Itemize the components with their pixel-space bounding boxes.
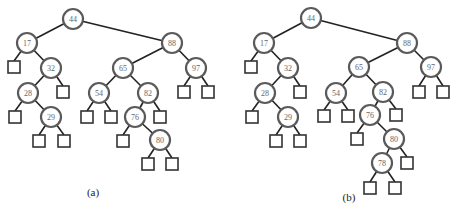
tree-node-28: 28 <box>255 83 275 103</box>
tree-node-65: 65 <box>113 58 133 78</box>
tree-node-17: 17 <box>254 33 274 53</box>
external-leaf-node <box>9 111 21 123</box>
node-key-label: 17 <box>23 39 31 48</box>
tree-node-44: 44 <box>301 8 321 28</box>
external-leaf-node <box>437 86 449 98</box>
tree-node-97: 97 <box>186 58 206 78</box>
external-leaf-node <box>413 86 425 98</box>
node-key-label: 28 <box>24 89 32 98</box>
tree-node-32: 32 <box>278 58 298 78</box>
tree-node-29: 29 <box>278 107 298 127</box>
tree-node-65: 65 <box>349 57 369 77</box>
external-leaf-node <box>294 135 306 147</box>
tree-node-88: 88 <box>162 33 182 53</box>
external-leaf-node <box>390 109 402 121</box>
external-leaf-node <box>270 135 282 147</box>
node-key-label: 80 <box>390 135 398 144</box>
external-leaf-node <box>246 111 258 123</box>
node-key-label: 76 <box>131 113 139 122</box>
external-leaf-node <box>142 158 154 170</box>
node-key-label: 54 <box>332 89 340 98</box>
tree-node-76: 76 <box>125 107 145 127</box>
tree-node-54: 54 <box>89 83 109 103</box>
edge-44-88 <box>311 18 407 43</box>
node-key-label: 65 <box>355 63 363 72</box>
tree-node-80: 80 <box>384 129 404 149</box>
external-leaf-node <box>58 135 70 147</box>
external-leaf-node <box>294 86 306 98</box>
tree-node-97: 97 <box>421 57 441 77</box>
node-key-label: 17 <box>260 39 268 48</box>
node-key-label: 88 <box>403 39 411 48</box>
tree-node-82: 82 <box>138 83 158 103</box>
node-key-label: 65 <box>119 64 127 73</box>
external-leaf-node <box>401 157 413 169</box>
tree-node-32: 32 <box>41 58 61 78</box>
node-key-label: 54 <box>95 89 103 98</box>
node-key-label: 28 <box>261 89 269 98</box>
tree-b: 44173228298865975482768078(b) <box>245 8 449 204</box>
subfigure-caption: (a) <box>87 186 100 199</box>
external-leaf-node <box>389 182 401 194</box>
node-key-label: 78 <box>378 159 386 168</box>
node-key-label: 97 <box>192 64 200 73</box>
node-key-label: 97 <box>427 63 435 72</box>
node-key-label: 80 <box>156 136 164 145</box>
tree-a: 441732282988659754827680(a) <box>8 9 214 199</box>
tree-node-29: 29 <box>41 107 61 127</box>
tree-node-80: 80 <box>150 130 170 150</box>
subfigure-caption: (b) <box>343 191 356 204</box>
node-key-label: 44 <box>69 15 77 24</box>
external-leaf-node <box>318 110 330 122</box>
tree-node-17: 17 <box>17 33 37 53</box>
external-leaf-node <box>33 135 45 147</box>
tree-node-28: 28 <box>18 83 38 103</box>
node-key-label: 88 <box>168 39 176 48</box>
node-key-label: 82 <box>144 89 152 98</box>
tree-node-78: 78 <box>372 153 392 173</box>
node-key-label: 44 <box>307 14 315 23</box>
node-key-label: 32 <box>284 64 292 73</box>
external-leaf-node <box>117 135 129 147</box>
node-key-label: 76 <box>366 111 374 120</box>
tree-node-44: 44 <box>63 9 83 29</box>
node-key-label: 32 <box>47 64 55 73</box>
external-leaf-node <box>81 111 93 123</box>
tree-node-88: 88 <box>397 33 417 53</box>
binary-search-tree-diagram: 441732282988659754827680(a) 441732282988… <box>0 0 452 208</box>
external-leaf-node <box>342 110 354 122</box>
node-key-label: 29 <box>284 113 292 122</box>
external-leaf-node <box>105 111 117 123</box>
external-leaf-node <box>154 111 166 123</box>
external-leaf-node <box>351 133 363 145</box>
tree-node-82: 82 <box>373 82 393 102</box>
external-leaf-node <box>178 86 190 98</box>
external-leaf-node <box>364 182 376 194</box>
external-leaf-node <box>245 61 257 73</box>
external-leaf-node <box>166 158 178 170</box>
node-key-label: 82 <box>379 88 387 97</box>
edge-44-88 <box>73 19 172 43</box>
node-key-label: 29 <box>47 113 55 122</box>
external-leaf-node <box>202 86 214 98</box>
tree-node-54: 54 <box>326 83 346 103</box>
external-leaf-node <box>57 86 69 98</box>
external-leaf-node <box>8 61 20 73</box>
tree-node-76: 76 <box>360 105 380 125</box>
